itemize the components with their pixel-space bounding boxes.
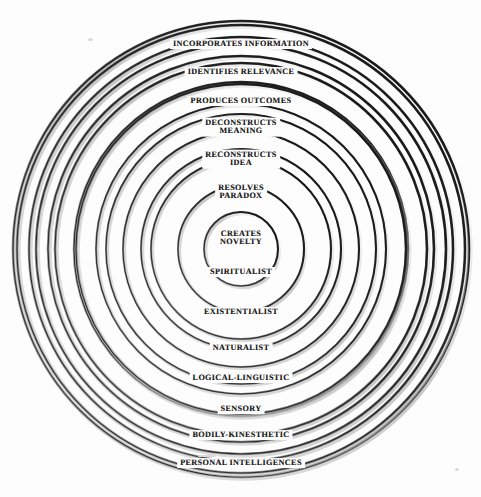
ring-label-5: RECONSTRUCTS IDEA	[202, 150, 280, 169]
ring-label-4: DECONSTRUCTS MEANING	[202, 118, 280, 137]
ring-label-8: SPIRITUALIST	[207, 267, 275, 277]
ring-circle	[178, 186, 304, 312]
ring-label-11: LOGICAL-LINGUISTIC	[190, 373, 293, 383]
ring-label-9: EXISTENTIALIST	[201, 307, 281, 317]
paper-speck	[198, 455, 216, 457]
ring-label-14: PERSONAL INTELLIGENCES	[177, 458, 305, 468]
paper-speck	[455, 468, 459, 471]
ring-label-7: CREATES NOVELTY	[217, 229, 265, 248]
ring-label-2: IDENTIFIES RELEVANCE	[185, 67, 298, 77]
ring-label-12: SENSORY	[218, 404, 265, 414]
paper-speck	[88, 38, 93, 41]
concentric-circles-diagram: INCORPORATES INFORMATIONIDENTIFIES RELEV…	[0, 0, 481, 497]
ring-label-6: RESOLVES PARADOX	[215, 183, 267, 202]
ring-label-3: PRODUCES OUTCOMES	[188, 96, 295, 106]
ring-label-13: BODILY-KINESTHETIC	[189, 430, 292, 440]
ring-label-10: NATURALIST	[210, 343, 273, 353]
ring-circle	[141, 149, 341, 349]
ring-label-1: INCORPORATES INFORMATION	[170, 39, 312, 49]
